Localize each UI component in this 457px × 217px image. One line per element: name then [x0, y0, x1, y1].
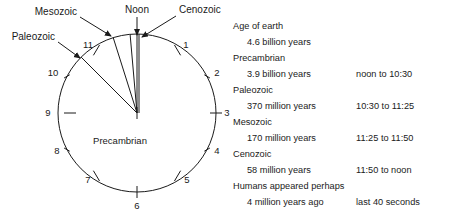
geologic-clock-figure: 1 2 3 4 5 6 7 8 9 10 11 — [0, 0, 457, 217]
table-row: 170 million years 11:25 to 11:50 — [233, 134, 457, 150]
fact-range: noon to 10:30 — [356, 70, 457, 86]
facts-table-wrap: Age of earth 4.6 billion years Precambri… — [233, 22, 457, 202]
fact-range — [356, 86, 457, 102]
fact-range: 11:25 to 11:50 — [356, 134, 457, 150]
fact-name: Precambrian — [233, 54, 356, 70]
fact-range — [356, 38, 457, 54]
callout-noon: Noon — [125, 4, 149, 15]
callout-cenozoic: Cenozoic — [179, 4, 221, 15]
table-row: Paleozoic — [233, 86, 457, 102]
fact-range: 11:50 to noon — [356, 166, 457, 182]
fact-duration: 58 million years — [233, 166, 356, 182]
table-row: 58 million years 11:50 to noon — [233, 166, 457, 182]
hour-number-10: 10 — [48, 67, 59, 78]
paleozoic-leader-line — [58, 42, 80, 58]
table-row: Mesozoic — [233, 118, 457, 134]
fact-duration: 4.6 billion years — [233, 38, 356, 54]
fact-duration: 4 million years ago — [233, 198, 356, 214]
table-row: Precambrian — [233, 54, 457, 70]
table-row: Age of earth — [233, 22, 457, 38]
fact-name: Age of earth — [233, 22, 356, 38]
fact-range — [356, 54, 457, 70]
cenozoic-leader-line — [142, 16, 176, 37]
clock-diagram: 1 2 3 4 5 6 7 8 9 10 11 — [0, 0, 232, 217]
fact-name: Mesozoic — [233, 118, 356, 134]
mesozoic-leader-line — [80, 17, 111, 36]
fact-range — [356, 150, 457, 166]
hour-number-3: 3 — [224, 107, 229, 118]
hour-number-5: 5 — [184, 174, 189, 185]
fact-duration: 170 million years — [233, 134, 356, 150]
fact-range: 10:30 to 11:25 — [356, 102, 457, 118]
table-row: Humans appeared perhaps — [233, 182, 457, 198]
precambrian-center-label: Precambrian — [93, 135, 147, 146]
fact-name: Humans appeared perhaps — [233, 182, 356, 198]
callout-paleozoic: Paleozoic — [12, 31, 55, 42]
table-row: 4.6 billion years — [233, 38, 457, 54]
fact-range — [356, 182, 457, 198]
callout-mesozoic: Mesozoic — [35, 6, 77, 17]
fact-duration: 370 million years — [233, 102, 356, 118]
hour-number-4: 4 — [214, 145, 219, 156]
table-row: 4 million years ago last 40 seconds — [233, 198, 457, 214]
table-row: Cenozoic — [233, 150, 457, 166]
fact-range: last 40 seconds — [356, 198, 457, 214]
fact-range — [356, 118, 457, 134]
clock-svg: 1 2 3 4 5 6 7 8 9 10 11 — [0, 0, 232, 217]
facts-table-body: Age of earth 4.6 billion years Precambri… — [233, 22, 457, 214]
table-row: 3.9 billion years noon to 10:30 — [233, 70, 457, 86]
hour-number-8: 8 — [54, 145, 59, 156]
hour-number-11: 11 — [83, 39, 93, 50]
fact-name: Paleozoic — [233, 86, 356, 102]
hour-number-6: 6 — [134, 200, 139, 211]
hour-number-1: 1 — [183, 39, 188, 50]
hour-number-9: 9 — [45, 107, 50, 118]
fact-range — [356, 22, 457, 38]
facts-table: Age of earth 4.6 billion years Precambri… — [233, 22, 457, 214]
hour-number-7: 7 — [85, 174, 90, 185]
fact-name: Cenozoic — [233, 150, 356, 166]
table-row: 370 million years 10:30 to 11:25 — [233, 102, 457, 118]
fact-duration: 3.9 billion years — [233, 70, 356, 86]
hour-number-2: 2 — [214, 67, 219, 78]
